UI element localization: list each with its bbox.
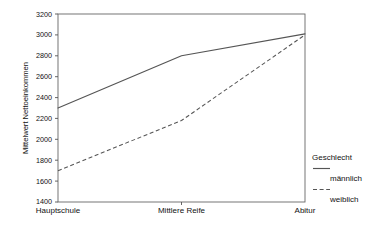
- legend-label-maennlich: männlich: [330, 174, 362, 183]
- y-tick-label: 1800: [36, 156, 52, 165]
- y-tick-label: 2200: [36, 114, 52, 123]
- y-tick-label: 3200: [36, 10, 52, 19]
- line-chart: 1400 1600 1800 2000 2200 2400 2600 2800 …: [0, 0, 375, 229]
- plot-background: [58, 14, 305, 202]
- y-tick-label: 2400: [36, 93, 52, 102]
- y-tick-label: 2800: [36, 51, 52, 60]
- y-tick-label: 2000: [36, 135, 52, 144]
- y-tick-label: 2600: [36, 72, 52, 81]
- legend-title: Geschlecht: [312, 153, 353, 162]
- y-axis-tick-labels: 1400 1600 1800 2000 2200 2400 2600 2800 …: [36, 10, 52, 207]
- x-category-label: Abitur: [295, 206, 316, 215]
- legend-label-weiblich: weiblich: [329, 195, 358, 204]
- x-category-label: Mittlere Reife: [158, 206, 206, 215]
- legend: Geschlecht männlich weiblich: [312, 153, 362, 204]
- y-tick-label: 3000: [36, 30, 52, 39]
- x-category-label: Hauptschule: [36, 206, 81, 215]
- x-axis-category-labels: Hauptschule Mittlere Reife Abitur: [36, 206, 316, 215]
- y-axis-title: Mittelwert Nettoeinkommen: [21, 62, 30, 154]
- y-tick-label: 1600: [36, 177, 52, 186]
- chart-canvas: 1400 1600 1800 2000 2200 2400 2600 2800 …: [0, 0, 375, 229]
